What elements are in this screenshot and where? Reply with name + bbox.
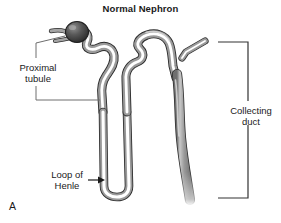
collecting-duct bbox=[170, 74, 202, 206]
connecting-tubule-branch bbox=[182, 41, 205, 58]
nephron-figure: Normal Nephron Proximal tubule Collectin… bbox=[0, 0, 281, 223]
figure-title: Normal Nephron bbox=[0, 3, 281, 14]
glomerulus bbox=[66, 22, 89, 43]
label-proximal-tubule: Proximal tubule bbox=[5, 62, 71, 84]
label-collecting-duct: Collecting duct bbox=[222, 105, 280, 127]
distal-convoluted-tubule bbox=[126, 32, 176, 112]
loop-of-henle bbox=[103, 112, 129, 197]
leader-line-proximal-lower bbox=[36, 86, 100, 100]
panel-letter: A bbox=[9, 201, 16, 212]
label-loop-of-henle: Loop of Henle bbox=[42, 169, 92, 191]
